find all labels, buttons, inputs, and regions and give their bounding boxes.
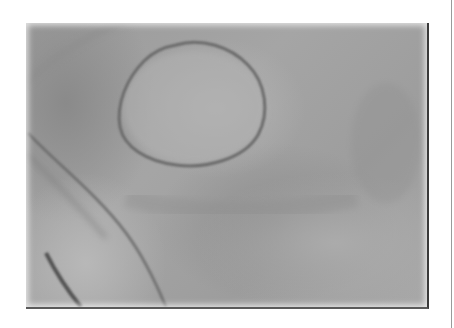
shadow-band [126, 198, 356, 211]
skin-fold-top [26, 23, 136, 83]
lesion-illustration [26, 23, 427, 307]
shadow-patch-right [351, 83, 421, 203]
skin-crease-3 [46, 253, 81, 307]
page-edge-line [451, 0, 452, 328]
skin-photo [26, 23, 427, 307]
skin-crease-1 [28, 133, 166, 307]
photo-frame [26, 23, 429, 309]
lesion-interior [122, 51, 266, 163]
